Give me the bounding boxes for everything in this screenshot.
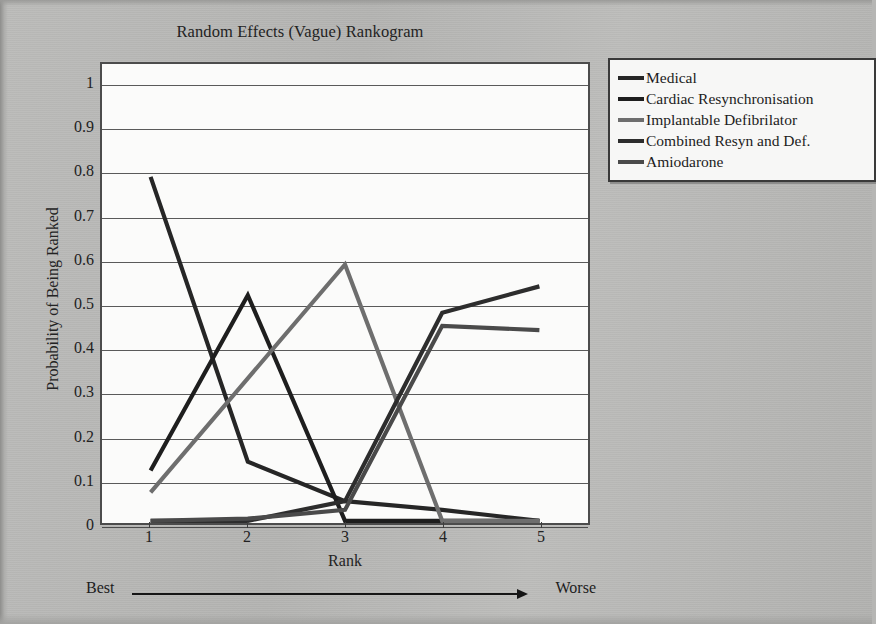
x-tick-mark xyxy=(541,522,542,528)
legend: MedicalCardiac ResynchronisationImplanta… xyxy=(608,58,876,182)
legend-line-swatch xyxy=(618,118,644,122)
direction-label-best: Best xyxy=(86,579,114,597)
series-line xyxy=(151,177,540,521)
legend-item-label: Medical xyxy=(646,70,697,86)
legend-line-swatch xyxy=(618,139,644,143)
y-tick-label: 0.6 xyxy=(20,252,94,268)
legend-line-swatch xyxy=(618,76,644,80)
x-tick-label: 3 xyxy=(325,528,365,546)
legend-line-swatch xyxy=(618,97,644,101)
x-tick-mark xyxy=(345,522,346,528)
legend-item: Cardiac Resynchronisation xyxy=(616,88,868,109)
y-axis-tick-labels: 00.10.20.30.40.50.60.70.80.91 xyxy=(14,62,94,525)
legend-item-label: Combined Resyn and Def. xyxy=(646,133,810,149)
arrow-shaft xyxy=(132,593,521,595)
x-axis-tick-labels: 12345 xyxy=(100,528,590,554)
series-line xyxy=(151,286,540,520)
plot-inner xyxy=(102,64,588,523)
x-tick-label: 5 xyxy=(521,528,561,546)
legend-item: Amiodarone xyxy=(616,151,868,172)
y-tick-label: 1 xyxy=(20,75,94,91)
series-lines xyxy=(102,64,588,523)
y-tick-label: 0.4 xyxy=(20,340,94,356)
y-tick-label: 0.8 xyxy=(20,163,94,179)
y-tick-label: 0.2 xyxy=(20,429,94,445)
plot-area xyxy=(100,62,590,525)
legend-item: Medical xyxy=(616,67,868,88)
direction-label-worse: Worse xyxy=(556,579,596,597)
x-tick-label: 2 xyxy=(227,528,267,546)
legend-line-swatch xyxy=(618,160,644,164)
y-tick-label: 0.1 xyxy=(20,473,94,489)
legend-item-label: Amiodarone xyxy=(646,154,723,170)
y-tick-label: 0.3 xyxy=(20,384,94,400)
x-tick-mark xyxy=(443,522,444,528)
x-tick-label: 1 xyxy=(129,528,169,546)
x-tick-label: 4 xyxy=(423,528,463,546)
y-tick-label: 0 xyxy=(20,517,94,533)
y-tick-label: 0.9 xyxy=(20,119,94,135)
x-tick-mark xyxy=(149,522,150,528)
legend-item-label: Cardiac Resynchronisation xyxy=(646,91,813,107)
y-tick-label: 0.5 xyxy=(20,296,94,312)
y-tick-label: 0.7 xyxy=(20,208,94,224)
legend-item-label: Implantable Defibrilator xyxy=(646,112,797,128)
x-axis-title: Rank xyxy=(100,552,590,570)
right-arrow-icon xyxy=(132,589,528,600)
x-tick-mark xyxy=(247,522,248,528)
chart-title: Random Effects (Vague) Rankogram xyxy=(0,22,600,42)
legend-item: Combined Resyn and Def. xyxy=(616,130,868,151)
arrow-head xyxy=(517,589,528,599)
direction-annotation: Best Worse xyxy=(86,578,596,604)
legend-item: Implantable Defibrilator xyxy=(616,109,868,130)
